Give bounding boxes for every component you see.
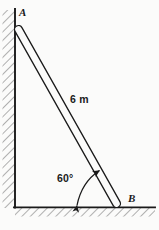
wall-hatching	[3, 10, 15, 208]
angle-label: 60°	[57, 173, 73, 184]
point-label-a: A	[19, 7, 26, 18]
point-label-b: B	[128, 193, 135, 204]
ladder-length-label: 6 m	[70, 94, 89, 105]
ladder-diagram: A B 6 m 60°	[0, 0, 159, 230]
ground-hatching	[15, 208, 155, 217]
